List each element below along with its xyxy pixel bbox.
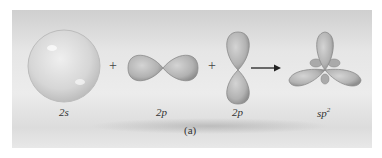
- label-2p-vertical: 2p: [232, 106, 243, 118]
- figure-caption: (a): [184, 124, 196, 136]
- 2s-orbital: [28, 30, 100, 102]
- label-2s: 2s: [59, 106, 69, 118]
- plus-operator-2: +: [208, 58, 216, 74]
- 2p-vertical-orbital: [227, 32, 250, 104]
- label-2p-horizontal: 2p: [156, 106, 167, 118]
- plus-operator-1: +: [109, 58, 117, 74]
- label-sp2: sp2: [317, 106, 330, 119]
- sp2-hybrid-orbital: [289, 32, 361, 86]
- 2p-horizontal-orbital: [128, 55, 198, 81]
- arrow-icon: [251, 65, 281, 72]
